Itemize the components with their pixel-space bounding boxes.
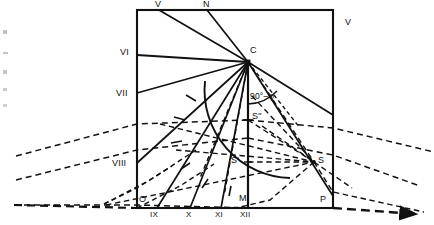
diagram-canvas bbox=[0, 0, 434, 225]
sundial-diagram: V N V C VI VII VIII O IX X XI XII M P S … bbox=[0, 0, 434, 225]
label-left-vi: VI bbox=[120, 48, 129, 57]
label-point-s: S bbox=[318, 156, 324, 165]
label-top-n: N bbox=[203, 0, 210, 9]
label-left-viii: VIII bbox=[112, 159, 126, 168]
label-angle-annotation: 90°–φ bbox=[250, 92, 274, 101]
margin-artifacts bbox=[3, 30, 8, 107]
label-bottom-xii: XII bbox=[240, 211, 250, 219]
label-hub-c: C bbox=[250, 46, 257, 55]
label-bottom-ix: IX bbox=[150, 211, 158, 219]
baseline-extension-right bbox=[333, 208, 416, 214]
label-bottom-x: X bbox=[186, 211, 192, 219]
label-point-s-prime: S' bbox=[231, 156, 239, 165]
label-origin-o: O bbox=[139, 195, 146, 204]
label-corner-p: P bbox=[320, 195, 326, 204]
label-point-s-double-prime: S" bbox=[252, 112, 262, 121]
label-point-m: M bbox=[239, 194, 247, 203]
label-bottom-xi: XI bbox=[215, 211, 223, 219]
label-corner-v: V bbox=[345, 18, 351, 27]
label-left-vii: VII bbox=[116, 89, 128, 98]
horizontal-hour-line-vi bbox=[137, 55, 248, 62]
label-top-v: V bbox=[155, 0, 161, 9]
